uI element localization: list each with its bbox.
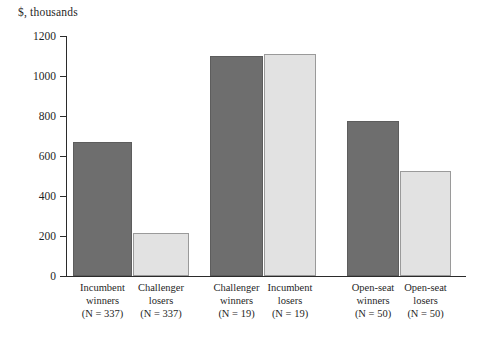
category-label-line-1: Incumbent xyxy=(244,281,336,294)
category-label-line-3: (N = 19) xyxy=(244,307,336,320)
y-tick-label: 1000 xyxy=(12,70,56,82)
bar[interactable] xyxy=(347,121,399,276)
category-label: Open-seatlosers(N = 50) xyxy=(380,281,472,321)
x-axis-line xyxy=(66,276,466,277)
y-tick-label: 400 xyxy=(12,190,56,202)
y-tick-label: 800 xyxy=(12,110,56,122)
bar-chart: $, thousands 020040060080010001200 Incum… xyxy=(0,0,488,340)
bar[interactable] xyxy=(400,171,451,276)
bars-layer xyxy=(66,36,466,276)
y-tick-label: 200 xyxy=(12,230,56,242)
x-axis-category-labels: Incumbentwinners(N = 337)Challengerloser… xyxy=(0,281,488,339)
category-label: Incumbentlosers(N = 19) xyxy=(244,281,336,321)
y-tick-mark xyxy=(60,276,67,277)
bar[interactable] xyxy=(73,142,132,276)
bar[interactable] xyxy=(264,54,316,276)
bar[interactable] xyxy=(210,56,263,276)
y-tick-label: 600 xyxy=(12,150,56,162)
category-label-line-1: Open-seat xyxy=(380,281,472,294)
category-label-line-3: (N = 50) xyxy=(380,307,472,320)
category-label-line-2: losers xyxy=(380,294,472,307)
bar[interactable] xyxy=(133,233,189,276)
y-tick-label: 1200 xyxy=(12,30,56,42)
category-label-line-2: losers xyxy=(244,294,336,307)
